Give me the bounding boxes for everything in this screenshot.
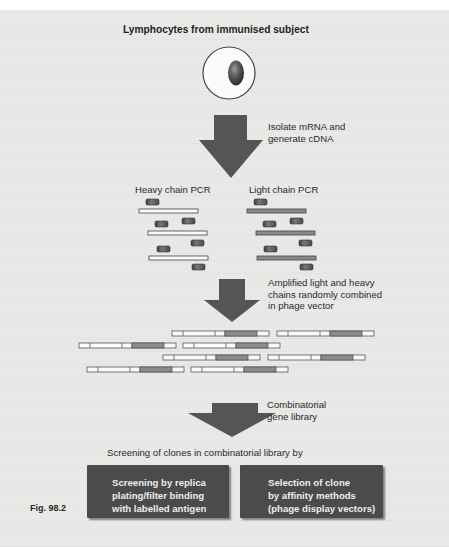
phage-vector (183, 343, 280, 348)
phage-vector (79, 343, 176, 348)
step-label-line: Combinatorial (267, 399, 326, 411)
step-label-line: in phage vector (268, 300, 382, 312)
arrow-down-icon (199, 115, 263, 178)
phage-vector (172, 331, 269, 336)
method-line: with labelled antigen (112, 502, 254, 515)
method-box-affinity-selection: Selection of clone by affinity methods (… (240, 465, 383, 518)
method-box-replica-plating: Screening by replica plating/filter bind… (87, 465, 229, 518)
phage-vector (277, 331, 374, 336)
step-label-line: chains randomly combined (268, 289, 382, 301)
step-label-line: gene library (267, 411, 326, 423)
step-label-line: Amplified light and heavy (268, 277, 382, 289)
phage-vector (163, 355, 260, 360)
heavy-chain-pcr-label: Heavy chain PCR (135, 184, 211, 196)
step-label-line: generate cDNA (268, 133, 345, 145)
step-label: Isolate mRNA and generate cDNA (268, 121, 345, 144)
method-line: (phage display vectors) (268, 502, 411, 515)
method-line: plating/filter binding (112, 489, 254, 502)
step-label: Amplified light and heavy chains randoml… (268, 277, 382, 312)
figure-title: Lymphocytes from immunised subject (123, 24, 309, 36)
phage-vector (191, 367, 288, 372)
figure-caption: Fig. 98.2 (30, 503, 66, 515)
step-label-line: Isolate mRNA and (268, 121, 345, 133)
light-chain-pcr-graphic (247, 199, 316, 270)
method-line: Selection of clone (268, 476, 411, 489)
method-line: Screening by replica (112, 476, 254, 489)
screening-heading: Screening of clones in combinatorial lib… (107, 447, 303, 459)
lymphocyte-cell-icon (203, 47, 255, 99)
light-chain-pcr-label: Light chain PCR (249, 184, 318, 196)
phage-vector (268, 355, 365, 360)
step-label: Combinatorial gene library (267, 399, 326, 422)
arrow-down-icon (204, 279, 260, 322)
phage-vector (87, 367, 184, 372)
phage-vector-graphics (79, 331, 374, 372)
method-line: by affinity methods (268, 489, 411, 502)
heavy-chain-pcr-graphic (139, 199, 208, 270)
arrow-down-icon (188, 403, 276, 437)
